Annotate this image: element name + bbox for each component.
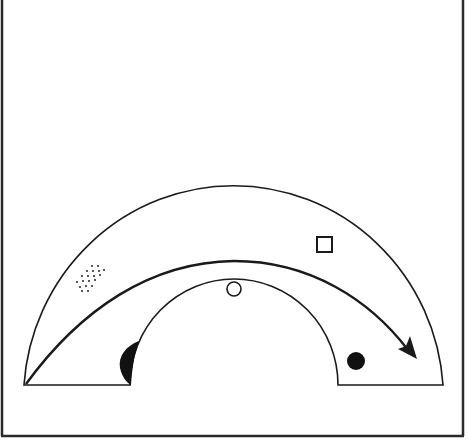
open-circle-marker	[227, 282, 241, 296]
dotted-patch-icon	[76, 265, 105, 292]
dark-crescent-marker	[120, 341, 139, 385]
filled-circle-marker	[347, 352, 365, 370]
semicircle-track-diagram	[0, 0, 468, 442]
open-square-marker	[317, 237, 332, 252]
frame-border	[1, 0, 464, 436]
